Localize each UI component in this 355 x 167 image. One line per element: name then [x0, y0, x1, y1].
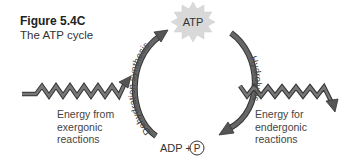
- hydrolysis-arrow: [219, 33, 255, 135]
- energy-input-zigzag-arrow: [22, 76, 131, 96]
- energy-input-text: Energy from exergonic reactions: [57, 108, 114, 146]
- energy-output-line-3: reactions: [255, 133, 307, 146]
- energy-input-line-3: reactions: [57, 133, 114, 146]
- atp-label: ATP: [183, 16, 204, 28]
- left-arc-label: Dehydration synthesis: [126, 40, 152, 138]
- phosphate-label: P: [194, 143, 201, 154]
- energy-output-line-2: endergonic: [255, 121, 307, 134]
- energy-output-line-1: Energy for: [255, 108, 307, 121]
- energy-output-text: Energy for endergonic reactions: [255, 108, 307, 146]
- adp-label: ADP +: [160, 142, 192, 154]
- energy-input-line-2: exergonic: [57, 121, 114, 134]
- energy-input-line-1: Energy from: [57, 108, 114, 121]
